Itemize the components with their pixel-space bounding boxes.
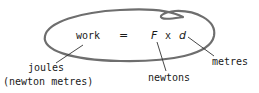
- work-equation-diagram: work = F x d joules (newton metres) newt…: [0, 0, 259, 93]
- distance-symbol: d: [179, 30, 186, 41]
- force-unit-label: newtons: [148, 73, 190, 83]
- work-unit-sublabel: (newton metres): [3, 77, 93, 87]
- distance-unit-label: metres: [212, 57, 248, 67]
- work-unit-label: joules: [28, 63, 64, 73]
- times-sign: x: [165, 31, 171, 41]
- force-symbol: F: [151, 30, 157, 41]
- equals-sign: =: [119, 30, 128, 41]
- work-leader-line: [56, 45, 83, 63]
- force-leader-line: [157, 42, 166, 71]
- work-term: work: [76, 31, 100, 41]
